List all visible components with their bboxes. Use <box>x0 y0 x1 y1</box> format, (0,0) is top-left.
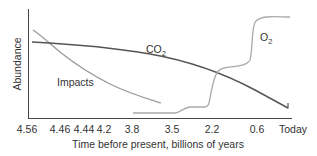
x-tick-label: Today <box>279 123 308 135</box>
x-tick-label: 3.8 <box>125 123 140 135</box>
impacts-label: Impacts <box>57 76 94 88</box>
x-tick-label: 4.56 <box>17 123 38 135</box>
y-axis-title: Abundance <box>11 37 23 90</box>
chart: CO2 O2 Impacts Abundance 4.56 4.46 4.44 … <box>0 0 317 156</box>
x-tick-label: 4.2 <box>97 123 112 135</box>
x-tick-label: 0.6 <box>250 123 265 135</box>
impacts-line <box>33 30 161 103</box>
x-axis-title: Time before present, billions of years <box>72 138 244 150</box>
x-tick-label: 2.2 <box>205 123 220 135</box>
o2-label: O2 <box>260 31 272 46</box>
x-tick-label: 3.5 <box>165 123 180 135</box>
x-tick-label: 4.46 <box>50 123 71 135</box>
x-tick-label: 4.44 <box>74 123 95 135</box>
